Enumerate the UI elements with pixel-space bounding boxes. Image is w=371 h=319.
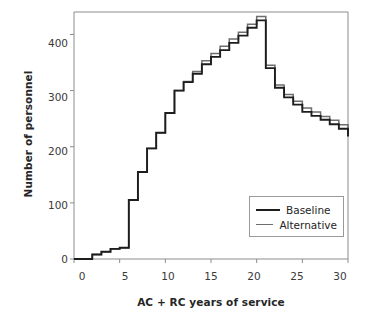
- chart-figure: Number of personnel 400 300 200 100 0 0 …: [0, 0, 371, 319]
- legend-swatch-alternative-icon: [256, 224, 273, 225]
- plot-area: [0, 0, 371, 319]
- legend-swatch-baseline-icon: [256, 209, 280, 211]
- x-tick-marks: [74, 259, 348, 263]
- chart-legend: Baseline Alternative: [249, 196, 344, 237]
- legend-item-alternative: Alternative: [256, 217, 337, 232]
- legend-label-baseline: Baseline: [286, 204, 331, 216]
- y-tick-marks: [70, 34, 74, 259]
- legend-item-baseline: Baseline: [256, 202, 337, 217]
- legend-label-alternative: Alternative: [279, 219, 337, 231]
